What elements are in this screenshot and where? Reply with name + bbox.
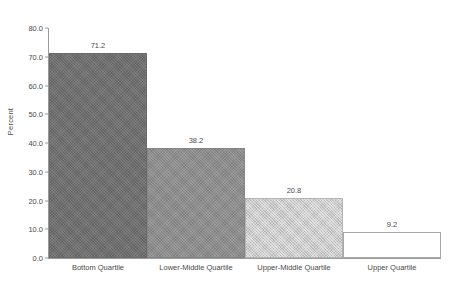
- y-axis-tick-label: 80.0: [28, 24, 43, 33]
- bar-chart: Percent 0.010.020.030.040.050.060.070.08…: [0, 0, 456, 292]
- x-axis-category-label: Lower-Middle Quartile: [147, 263, 245, 272]
- x-axis-category-label: Upper Quartile: [343, 263, 441, 272]
- y-axis-tick-label: 20.0: [28, 196, 43, 205]
- y-axis-tick-label: 10.0: [28, 225, 43, 234]
- y-axis-tick-label: 40.0: [28, 139, 43, 148]
- y-axis-title: Percent: [4, 0, 18, 242]
- y-axis-tick-label: 30.0: [28, 167, 43, 176]
- bar[interactable]: [147, 148, 245, 258]
- bar[interactable]: [245, 198, 343, 258]
- y-axis-tick-label: 0.0: [33, 254, 43, 263]
- y-axis-title-label: Percent: [7, 107, 16, 134]
- x-axis-category-label: Upper-Middle Quartile: [245, 263, 343, 272]
- bar-group: 71.2: [49, 28, 147, 258]
- bar-group: 9.2: [343, 28, 441, 258]
- y-axis: 0.010.020.030.040.050.060.070.080.0: [18, 28, 48, 258]
- bar-value-label: 38.2: [147, 136, 245, 145]
- y-axis-tick-label: 60.0: [28, 81, 43, 90]
- bar-group: 38.2: [147, 28, 245, 258]
- bar-value-label: 71.2: [49, 41, 147, 50]
- bar-value-label: 20.8: [245, 186, 343, 195]
- x-axis-category-label: Bottom Quartile: [49, 263, 147, 272]
- bar-group: 20.8: [245, 28, 343, 258]
- bar-value-label: 9.2: [343, 220, 441, 229]
- x-axis-line: [48, 258, 441, 259]
- bar[interactable]: [343, 232, 441, 258]
- y-axis-tick-label: 50.0: [28, 110, 43, 119]
- plot-area: 71.238.220.89.2: [49, 28, 441, 258]
- x-axis: Bottom QuartileLower-Middle QuartileUppe…: [49, 263, 441, 283]
- y-axis-tick-label: 70.0: [28, 52, 43, 61]
- bar[interactable]: [49, 53, 147, 258]
